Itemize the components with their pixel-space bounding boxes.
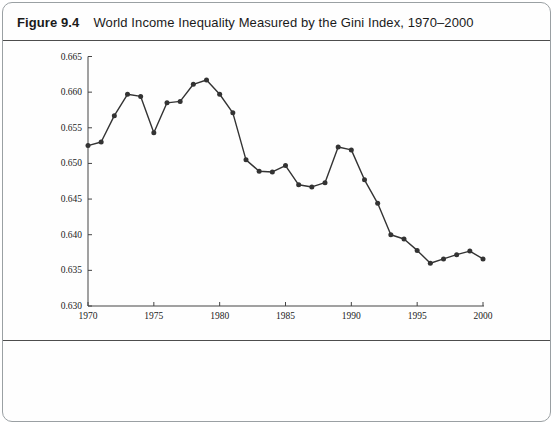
data-point-marker	[270, 169, 275, 174]
data-point-marker	[415, 248, 420, 253]
x-tick-label: 1990	[342, 311, 361, 321]
data-point-marker	[191, 82, 196, 87]
data-point-marker	[375, 201, 380, 206]
y-tick-label: 0.655	[61, 123, 83, 133]
axes	[88, 57, 484, 307]
data-point-marker	[257, 169, 262, 174]
data-point-marker	[454, 252, 459, 257]
data-point-marker	[99, 140, 104, 145]
y-tick-label: 0.665	[61, 52, 83, 62]
data-point-marker	[428, 261, 433, 266]
data-point-marker	[349, 147, 354, 152]
x-tick-label: 1975	[144, 311, 163, 321]
x-tick-label: 2000	[474, 311, 493, 321]
y-tick-label: 0.660	[61, 87, 83, 97]
x-tick-label: 1995	[408, 311, 427, 321]
data-point-marker	[244, 157, 249, 162]
figure-title: World Income Inequality Measured by the …	[93, 15, 473, 30]
data-point-marker	[138, 94, 143, 99]
x-tick-label: 1985	[276, 311, 295, 321]
figure-title-row: Figure 9.4World Income Inequality Measur…	[3, 3, 550, 41]
data-point-marker	[323, 180, 328, 185]
gini-series-markers	[86, 78, 486, 266]
x-tick-labels: 1970197519801985199019952000	[79, 311, 493, 321]
data-point-marker	[151, 130, 156, 135]
data-point-marker	[86, 143, 91, 148]
data-point-marker	[230, 110, 235, 115]
chart-region: 0.6300.6350.6400.6450.6500.6550.6600.665…	[3, 41, 550, 341]
data-point-marker	[204, 78, 209, 83]
y-tick-label: 0.630	[61, 301, 83, 311]
data-point-marker	[402, 236, 407, 241]
data-point-marker	[336, 145, 341, 150]
gini-series-line	[88, 80, 483, 263]
data-point-marker	[178, 99, 183, 104]
data-point-marker	[481, 256, 486, 261]
data-point-marker	[362, 177, 367, 182]
y-tick-label: 0.650	[61, 158, 83, 168]
data-point-marker	[309, 184, 314, 189]
data-point-marker	[217, 92, 222, 97]
data-point-marker	[165, 100, 170, 105]
data-point-marker	[112, 113, 117, 118]
data-point-marker	[283, 163, 288, 168]
y-tick-labels: 0.6300.6350.6400.6450.6500.6550.6600.665	[61, 52, 83, 312]
gini-line-chart: 0.6300.6350.6400.6450.6500.6550.6600.665…	[3, 41, 550, 340]
figure-label: Figure 9.4	[17, 15, 79, 30]
data-point-marker	[125, 92, 130, 97]
x-tick-label: 1980	[210, 311, 229, 321]
y-tick-label: 0.635	[61, 265, 83, 275]
card-footer	[3, 341, 550, 371]
figure-card: Figure 9.4World Income Inequality Measur…	[2, 2, 551, 422]
y-tick-label: 0.640	[61, 230, 83, 240]
data-point-marker	[388, 232, 393, 237]
y-tick-label: 0.645	[61, 194, 83, 204]
x-tick-label: 1970	[79, 311, 98, 321]
data-point-marker	[441, 256, 446, 261]
data-point-marker	[467, 249, 472, 254]
data-point-marker	[296, 182, 301, 187]
